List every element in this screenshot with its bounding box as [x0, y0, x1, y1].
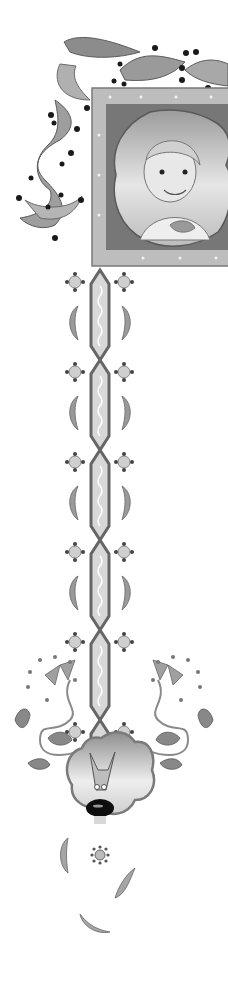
rosette — [114, 272, 134, 292]
feather — [70, 306, 78, 340]
feather — [70, 576, 78, 610]
chain-link — [91, 450, 109, 540]
feather — [122, 396, 130, 430]
chain-link — [91, 360, 109, 450]
pendant-rosette — [90, 845, 109, 864]
rosette — [65, 632, 85, 652]
rosette — [114, 542, 134, 562]
chain-link — [91, 630, 109, 720]
feather — [122, 486, 130, 520]
rosette — [114, 452, 134, 472]
chain-link — [91, 270, 109, 360]
chain — [91, 270, 109, 810]
feather — [70, 396, 78, 430]
decorative-border-illustration — [0, 0, 228, 988]
feather — [70, 486, 78, 520]
rosette — [114, 362, 134, 382]
rosette — [65, 272, 85, 292]
rosette — [114, 632, 134, 652]
rosette — [65, 362, 85, 382]
feather — [122, 306, 130, 340]
feather — [122, 576, 130, 610]
rosette — [65, 452, 85, 472]
chain-link — [91, 540, 109, 630]
dog-medallion — [67, 732, 154, 864]
rosette — [65, 542, 85, 562]
